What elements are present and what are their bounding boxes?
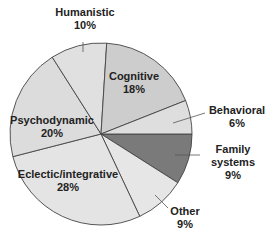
pie-chart: Humanistic 10% Cognitive 18% Behavioral … <box>0 0 269 233</box>
cognitive-percent: 18% <box>123 83 145 95</box>
humanistic-percent: 10% <box>74 19 96 31</box>
family-systems-label-line1: Family <box>216 143 252 155</box>
other-label: Other <box>170 205 200 217</box>
other-percent: 9% <box>177 218 193 230</box>
humanistic-label: Humanistic <box>55 6 114 18</box>
family-systems-percent: 9% <box>225 169 241 181</box>
behavioral-label: Behavioral <box>209 104 265 116</box>
family-systems-label-line2: systems <box>211 156 255 168</box>
behavioral-percent: 6% <box>229 117 245 129</box>
eclectic-integrative-label: Eclectic/integrative <box>18 168 118 180</box>
eclectic-integrative-percent: 28% <box>57 181 79 193</box>
pie-slices <box>10 43 192 225</box>
psychodynamic-label: Psychodynamic <box>10 114 94 126</box>
psychodynamic-percent: 20% <box>41 127 63 139</box>
cognitive-label: Cognitive <box>109 70 159 82</box>
